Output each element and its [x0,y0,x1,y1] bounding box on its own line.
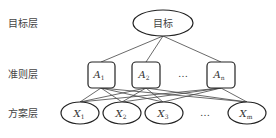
criteria-sub: 2 [146,74,150,81]
alternative-node-x1: X1 [61,102,99,124]
criteria-ellipsis: … [178,68,188,79]
criteria-node-a1: A1 [88,62,115,88]
alternative-node-xm: Xm [228,102,266,124]
criteria-label: A [212,69,220,80]
alternative-sub: 3 [165,113,169,120]
alternative-node-x2: X2 [103,102,141,124]
criteria-label: A [92,69,100,80]
alternative-sub: 1 [81,113,85,120]
criteria-label: A [137,69,145,80]
criteria-layer-label: 准则层 [8,68,38,80]
goal-node: 目标 [133,10,193,36]
alternatives-ellipsis: … [200,107,210,118]
criteria-node-a2: A2 [132,62,160,88]
alternative-node-x3: X3 [145,102,183,124]
goal-node-label: 目标 [153,18,173,29]
criteria-sub: 1 [101,74,105,81]
alternatives-layer-label: 方案层 [8,107,38,119]
criteria-node-an: An [207,62,235,88]
alternative-sub: m [247,113,253,120]
ahp-hierarchy-diagram: 目标层 准则层 方案层 目标 A1 A2 … An X1 X2 X3 … Xm [0,0,276,138]
criteria-sub: n [221,74,225,81]
goal-layer-label: 目标层 [8,18,38,29]
alternative-sub: 2 [123,113,127,120]
